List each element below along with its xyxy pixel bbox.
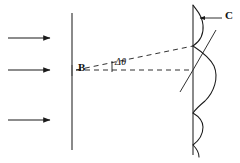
incoming-wave-arrows bbox=[8, 38, 50, 120]
slit-label: B bbox=[78, 62, 86, 73]
pattern-label: C bbox=[225, 10, 233, 21]
diffraction-figure: B Δθ C bbox=[0, 0, 240, 163]
ray-upper-dashed bbox=[76, 46, 193, 70]
ray-lower-solid bbox=[180, 70, 193, 92]
figure-canvas bbox=[0, 0, 240, 163]
diffracted-rays bbox=[76, 30, 216, 92]
diffraction-intensity-curve bbox=[193, 5, 216, 157]
angle-label: Δθ bbox=[115, 57, 126, 67]
